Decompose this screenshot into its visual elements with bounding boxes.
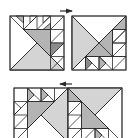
- quilt-block-b: [72, 16, 126, 70]
- quilt-block-a: [10, 16, 64, 70]
- quilt-block-c: [14, 88, 68, 138]
- quilt-block-d: [68, 88, 122, 138]
- quilt-diagram: [0, 0, 132, 138]
